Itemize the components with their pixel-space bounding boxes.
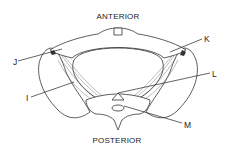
- label-l: L: [212, 69, 217, 79]
- label-k: K: [204, 34, 210, 44]
- anterior-label: ANTERIOR: [97, 12, 140, 21]
- label-j: J: [13, 57, 17, 67]
- pelvis-diagram: ANTERIOR POSTERIOR J K L I M: [0, 0, 237, 153]
- label-i: I: [26, 93, 28, 103]
- pubic-symphysis: [114, 28, 122, 35]
- pelvic-inlet: [73, 48, 164, 100]
- posterior-label: POSTERIOR: [93, 136, 142, 145]
- sacral-body: [112, 105, 124, 111]
- label-m: M: [184, 120, 191, 130]
